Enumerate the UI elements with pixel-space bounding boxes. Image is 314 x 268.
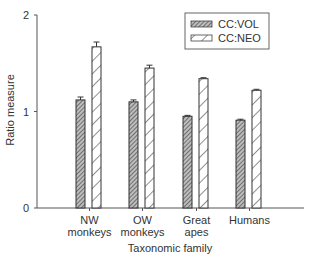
bar-cc-vol [183, 116, 192, 208]
bar-cc-neo [252, 90, 261, 208]
y-tick-label: 2 [23, 9, 29, 21]
legend-swatch-vol [191, 21, 212, 27]
x-tick-label: Great [183, 214, 211, 226]
x-ticks: NWmonkeysOWmonkeysGreatapesHumans [67, 208, 270, 238]
bar-cc-vol [129, 102, 138, 208]
bar-cc-neo [199, 79, 208, 208]
legend: CC:VOL CC:NEO [185, 13, 269, 49]
bars [76, 42, 261, 208]
x-tick-label: monkeys [120, 226, 165, 238]
x-axis-label: Taxonomic family [128, 242, 213, 254]
y-tick-label: 0 [23, 202, 29, 214]
x-tick-label: apes [185, 226, 209, 238]
bar-cc-neo [145, 68, 154, 208]
bar-cc-neo [92, 47, 101, 208]
legend-swatch-neo [191, 35, 212, 41]
bar-cc-vol [236, 120, 245, 208]
legend-label-neo: CC:NEO [218, 32, 261, 44]
y-axis-label: Ratio measure [4, 74, 16, 146]
x-tick-label: NW [80, 214, 99, 226]
y-ticks: 012 [23, 9, 37, 214]
y-tick-label: 1 [23, 106, 29, 118]
x-tick-label: Humans [229, 214, 270, 226]
x-tick-label: monkeys [67, 226, 112, 238]
legend-label-vol: CC:VOL [218, 18, 259, 30]
bar-chart: 012 NWmonkeysOWmonkeysGreatapesHumans Ra… [0, 0, 314, 268]
bar-cc-vol [76, 100, 85, 208]
x-tick-label: OW [133, 214, 153, 226]
